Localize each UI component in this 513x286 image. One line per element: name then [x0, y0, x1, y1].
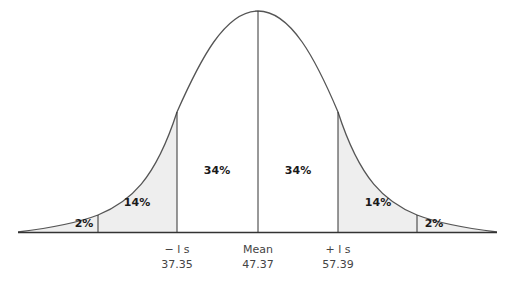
normal-distribution-diagram: 2% 14% 34% 34% 14% 2% − l s 37.35 Mean 4… — [0, 0, 513, 286]
axis-label-mean: Mean — [243, 243, 273, 256]
region-label-left-14: 14% — [124, 196, 150, 209]
axis-label-minus-1s: − l s — [165, 243, 190, 256]
axis-value-plus-1s: 57.39 — [322, 258, 354, 271]
region-label-left-34: 34% — [204, 164, 230, 177]
axis-value-minus-1s: 37.35 — [161, 258, 193, 271]
axis-label-plus-1s: + l s — [326, 243, 351, 256]
region-label-right-tail: 2% — [425, 217, 444, 230]
region-label-right-34: 34% — [285, 164, 311, 177]
region-label-left-tail: 2% — [75, 217, 94, 230]
region-label-right-14: 14% — [365, 196, 391, 209]
axis-value-mean: 47.37 — [242, 258, 274, 271]
left-14-shade — [98, 112, 177, 232]
right-14-shade — [338, 112, 417, 232]
